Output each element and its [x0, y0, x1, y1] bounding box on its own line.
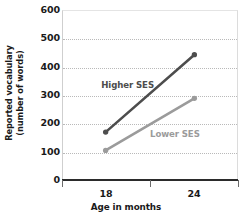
y-axis-title: Reported vocabulary (number of words) — [0, 0, 30, 185]
y-tick-label: 300 — [34, 90, 60, 100]
y-tick-label: 400 — [34, 62, 60, 72]
x-tick-mark — [238, 180, 239, 187]
data-point-marker — [103, 129, 108, 134]
x-tick-label: 18 — [99, 188, 112, 199]
y-tick-label: 600 — [34, 5, 60, 15]
y-tick-label: 500 — [34, 33, 60, 43]
y-axis-tick-labels: 0100200300400500600 — [30, 0, 60, 218]
x-axis-title: Age in months — [0, 202, 252, 212]
data-point-marker — [103, 148, 108, 153]
y-tick-label: 100 — [34, 147, 60, 157]
series-lines — [63, 11, 237, 180]
vocabulary-growth-line-chart: Reported vocabulary (number of words) 01… — [0, 0, 252, 218]
y-tick-label: 200 — [34, 118, 60, 128]
data-point-marker — [192, 96, 197, 101]
series-line — [106, 55, 195, 132]
y-axis-title-line-2: (number of words) — [15, 45, 26, 141]
y-axis-title-line-1: Reported vocabulary — [4, 45, 15, 141]
x-tick-label: 24 — [187, 188, 200, 199]
plot-area: Higher SESLower SES — [62, 10, 238, 180]
data-point-marker — [192, 52, 197, 57]
x-axis-ticks — [62, 180, 238, 190]
series-label: Higher SES — [101, 80, 154, 90]
series-line — [106, 98, 195, 150]
series-label: Lower SES — [150, 129, 200, 139]
x-tick-mark — [150, 180, 151, 187]
y-tick-label: 0 — [34, 175, 60, 185]
x-tick-mark — [62, 180, 63, 187]
